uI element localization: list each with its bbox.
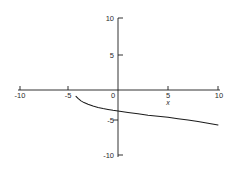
x-tick-labels: -10 -5 0 5 10 <box>15 91 224 100</box>
y-tick-label-minus10: -10 <box>103 151 114 160</box>
chart-container: -10 -5 0 5 10 10 5 -5 -10 x <box>0 0 238 170</box>
x-tick-label-zero: 0 <box>111 91 115 100</box>
x-tick-label-minus5: -5 <box>65 91 72 100</box>
x-axis-label: x <box>165 99 170 106</box>
y-tick-label-10: 10 <box>106 14 114 23</box>
y-tick-label-5: 5 <box>110 51 114 60</box>
x-tick-marks <box>20 86 218 90</box>
data-curve <box>76 96 218 125</box>
x-tick-label-10: 10 <box>215 91 223 100</box>
x-tick-label-minus10: -10 <box>15 91 26 100</box>
chart-svg: -10 -5 0 5 10 10 5 -5 -10 x <box>0 0 238 170</box>
y-tick-label-minus5: -5 <box>107 116 114 125</box>
axes-group <box>18 18 220 157</box>
y-tick-labels: 10 5 -5 -10 <box>103 14 114 160</box>
